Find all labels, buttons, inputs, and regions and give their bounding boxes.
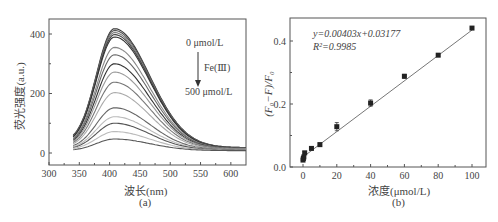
- data-point: [368, 101, 373, 106]
- data-point: [470, 26, 475, 31]
- x-tick-label: 350: [72, 168, 87, 179]
- y-tick-label: 200: [30, 88, 45, 99]
- spectrum-curve: [73, 108, 246, 150]
- annotation-bottom: 500 μmol/L: [185, 86, 232, 97]
- calibration-panel: 0204060801000.00.20.4 (b) 浓度(μmol/L) (F₀…: [250, 0, 498, 222]
- y-axis-title-a: 荧光强度(a.u.): [11, 56, 27, 136]
- y-tick-label: 0.2: [274, 99, 287, 110]
- y-tick-label: 0.0: [274, 162, 287, 173]
- x-axis-title-b: 浓度(μmol/L): [368, 182, 430, 198]
- data-point: [309, 146, 314, 151]
- annotation-top: 0 μmol/L: [186, 37, 223, 48]
- data-point: [302, 150, 307, 155]
- y-tick-label: 400: [30, 29, 45, 40]
- x-tick-label: 20: [332, 170, 342, 181]
- x-tick-label: 300: [42, 168, 57, 179]
- x-tick-label: 60: [399, 170, 409, 181]
- x-tick-label: 450: [132, 168, 147, 179]
- r-squared: R²=0.9985: [313, 41, 356, 52]
- x-tick-label: 80: [433, 170, 443, 181]
- x-tick-label: 0: [301, 170, 306, 181]
- x-tick-label: 100: [465, 170, 480, 181]
- y-tick-label: 0.4: [274, 36, 287, 47]
- x-tick-label: 40: [366, 170, 376, 181]
- data-point: [436, 53, 441, 58]
- x-tick-label: 400: [102, 168, 117, 179]
- spectra-panel: 3003504004505005506000200400 (a) 波长(nm) …: [0, 0, 250, 222]
- annotation-fe: Fe(Ⅲ): [204, 62, 230, 73]
- data-point: [402, 74, 407, 79]
- regression-equation: y=0.00403x+0.03177: [313, 28, 400, 39]
- x-tick-label: 550: [193, 168, 208, 179]
- x-tick-label: 500: [163, 168, 178, 179]
- y-tick-label: 0: [40, 148, 45, 159]
- data-point: [334, 124, 339, 129]
- data-point: [317, 142, 322, 147]
- x-axis-title-a: 波长(nm): [124, 182, 167, 198]
- x-tick-label: 600: [223, 168, 238, 179]
- y-axis-title-b: (F₀−F)/F₀: [262, 54, 274, 134]
